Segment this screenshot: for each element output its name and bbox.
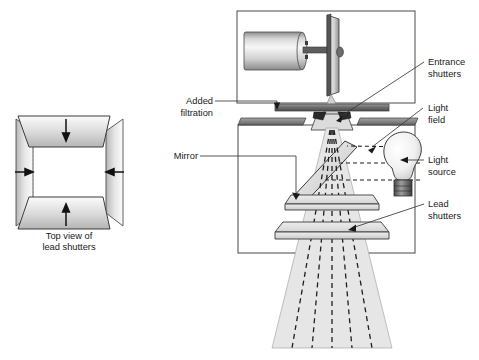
leader-mirror [200,156,296,196]
anode-disc-edge [327,14,331,96]
shutter-blade-top [18,116,110,147]
lead-shutter-plate-upper [285,195,379,210]
light-source-bulb [384,132,421,196]
label-light-field-line1: Light [428,103,449,113]
label-mirror: Mirror [174,151,198,161]
added-filtration-plate [275,104,389,111]
cathode-cylinder-body [244,32,302,70]
label-entrance-shutters-line1: Entrance [428,57,465,67]
lead-shutter-lower-front [275,232,389,239]
top-view-caption-line1: Top view of [46,231,93,241]
bulb-metal-base [394,180,412,196]
arrowhead-light-field [368,147,376,154]
diagram-canvas: Top view of lead shutters [0,0,479,360]
label-light-source-line1: Light [428,155,449,165]
lead-shutter-upper-top [285,195,379,204]
shaft-collar-upper [305,41,308,45]
shutter-blade-bottom-face [18,197,110,229]
label-entrance-shutters-line2: shutters [428,69,461,79]
lead-shutter-plate-lower [275,222,389,239]
top-view-lead-shutters-group: Top view of lead shutters [15,116,124,252]
figure-svg: Top view of lead shutters [0,0,479,360]
collimator-ledge-left [238,118,306,125]
label-added-filtration-line2: filtration [180,108,213,118]
label-light-source-line2: source [428,167,456,177]
shutter-blade-bottom [18,197,110,229]
label-lead-shutters-line1: Lead [428,199,449,209]
top-view-caption-line2: lead shutters [42,242,96,252]
label-light-field-line2: field [428,115,445,125]
anode-shaft [303,47,329,53]
shaft-collar-lower [305,55,308,59]
lead-shutter-upper-front [285,204,379,210]
lead-shutter-lower-top [275,222,389,232]
anode-hub [337,47,344,57]
label-lead-shutters-line2: shutters [428,211,461,221]
shutter-blade-top-face [18,116,110,147]
bulb-glass-envelope [384,132,421,180]
label-added-filtration-line1: Added [186,96,213,106]
